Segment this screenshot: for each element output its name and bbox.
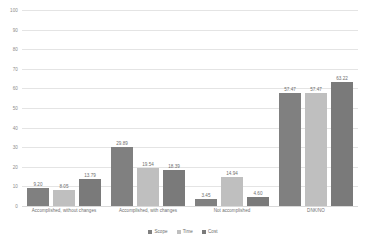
- bar-groups: 9.208.0513.7929.8919.5418.393.4514.944.6…: [22, 10, 358, 206]
- y-axis-tick-label: 90: [13, 27, 18, 32]
- legend-swatch-icon: [148, 230, 152, 234]
- bar-slot: 57.47: [279, 10, 301, 206]
- bar[interactable]: [221, 177, 243, 206]
- bar-slot: 18.39: [163, 10, 185, 206]
- bar[interactable]: [79, 179, 101, 206]
- bar-slot: 63.22: [331, 10, 353, 206]
- plot-area: 0102030405060708090100 9.208.0513.7929.8…: [22, 10, 358, 206]
- bar-value-label: 63.22: [336, 76, 348, 81]
- bar-value-label: 9.20: [33, 182, 42, 187]
- bar-slot: 8.05: [53, 10, 75, 206]
- gridline: 0: [22, 206, 358, 207]
- legend-swatch-icon: [202, 230, 206, 234]
- y-axis-tick-label: 100: [10, 8, 18, 13]
- legend-swatch-icon: [177, 230, 181, 234]
- legend-label: Cost: [208, 229, 218, 234]
- y-axis-tick-label: 10: [13, 184, 18, 189]
- y-axis-tick-label: 30: [13, 145, 18, 150]
- y-axis-tick-label: 60: [13, 86, 18, 91]
- y-axis-tick-label: 70: [13, 66, 18, 71]
- x-axis-category-label: DNK/NO: [274, 208, 358, 213]
- bar-value-label: 18.39: [168, 164, 180, 169]
- bar-slot: 3.45: [195, 10, 217, 206]
- bar-value-label: 14.94: [226, 171, 238, 176]
- x-axis-category-label: Accomplished, without changes: [22, 208, 106, 213]
- x-axis-category-label: Accomplished, with changes: [106, 208, 190, 213]
- bar[interactable]: [331, 82, 353, 206]
- chart-legend: ScopeTimeCost: [0, 229, 366, 234]
- y-axis-tick-label: 50: [13, 106, 18, 111]
- bar-slot: 19.54: [137, 10, 159, 206]
- bar-slot: 29.89: [111, 10, 133, 206]
- bar-slot: 13.79: [79, 10, 101, 206]
- bar-chart: 0102030405060708090100 9.208.0513.7929.8…: [0, 0, 366, 246]
- y-axis-tick-label: 40: [13, 125, 18, 130]
- x-axis-labels: Accomplished, without changesAccomplishe…: [22, 208, 358, 213]
- bar-value-label: 3.45: [201, 193, 210, 198]
- y-axis-tick-label: 0: [15, 204, 18, 209]
- legend-label: Time: [183, 229, 193, 234]
- bar-group: 57.4757.4763.22: [274, 10, 358, 206]
- bar[interactable]: [163, 170, 185, 206]
- bar[interactable]: [137, 168, 159, 206]
- bar-value-label: 19.54: [142, 162, 154, 167]
- bar-value-label: 29.89: [116, 141, 128, 146]
- bar-value-label: 57.47: [284, 87, 296, 92]
- bar[interactable]: [111, 147, 133, 206]
- bar-value-label: 4.60: [253, 191, 262, 196]
- bar-value-label: 13.79: [84, 173, 96, 178]
- legend-item[interactable]: Cost: [202, 229, 218, 234]
- legend-item[interactable]: Scope: [148, 229, 167, 234]
- bar[interactable]: [53, 190, 75, 206]
- bar-slot: 9.20: [27, 10, 49, 206]
- bar-value-label: 57.47: [310, 87, 322, 92]
- legend-item[interactable]: Time: [177, 229, 193, 234]
- bar-value-label: 8.05: [59, 184, 68, 189]
- bar-slot: 57.47: [305, 10, 327, 206]
- bar-slot: 4.60: [247, 10, 269, 206]
- legend-label: Scope: [154, 229, 167, 234]
- bar-group: 29.8919.5418.39: [106, 10, 190, 206]
- bar-slot: 14.94: [221, 10, 243, 206]
- bar-group: 3.4514.944.60: [190, 10, 274, 206]
- bar[interactable]: [27, 188, 49, 206]
- bar[interactable]: [279, 93, 301, 206]
- bar-group: 9.208.0513.79: [22, 10, 106, 206]
- bar[interactable]: [195, 199, 217, 206]
- y-axis-tick-label: 80: [13, 47, 18, 52]
- x-axis-category-label: Not accomplished: [190, 208, 274, 213]
- bar[interactable]: [247, 197, 269, 206]
- bar[interactable]: [305, 93, 327, 206]
- y-axis-tick-label: 20: [13, 164, 18, 169]
